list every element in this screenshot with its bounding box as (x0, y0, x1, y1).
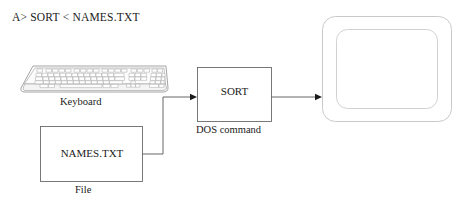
command-label: DOS command (196, 124, 261, 135)
command-line-text: A> SORT < NAMES.TXT (12, 11, 140, 23)
command-box-text: SORT (197, 85, 272, 97)
file-box-text: NAMES.TXT (50, 147, 134, 159)
keyboard-label: Keyboard (60, 96, 101, 107)
edge-file-to-command (143, 97, 194, 154)
arrowhead-file-to-command (190, 94, 197, 100)
file-label: File (75, 184, 91, 195)
keyboard-icon (21, 66, 168, 92)
diagram-canvas: A> SORT < NAMES.TXT Keyboard NAMES.TXT F… (0, 0, 472, 211)
arrowhead-command-to-monitor (315, 94, 322, 100)
monitor-icon (323, 17, 452, 122)
